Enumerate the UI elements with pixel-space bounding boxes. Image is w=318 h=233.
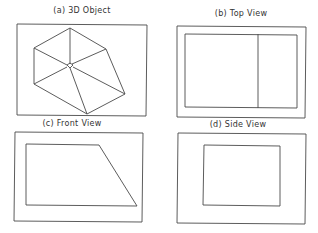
panel-c-front-view <box>14 132 143 222</box>
panel-d-frame <box>177 133 306 224</box>
object-edge <box>70 68 87 114</box>
object-edge <box>72 49 106 64</box>
panel-b-top-view <box>177 26 306 118</box>
side-view-rect <box>203 145 280 206</box>
object-edge <box>34 67 67 84</box>
diagram-canvas <box>0 0 318 233</box>
panel-a-frame <box>17 24 147 116</box>
top-view-outline <box>185 34 297 108</box>
object-edge <box>34 28 125 114</box>
panel-b-frame <box>177 26 306 118</box>
object-edge <box>34 48 67 65</box>
panel-c-frame <box>14 132 143 222</box>
panel-d-side-view <box>177 133 306 224</box>
panel-a-3d-object <box>17 24 147 116</box>
object-edge <box>73 67 125 94</box>
front-view-trapezoid <box>26 144 137 206</box>
